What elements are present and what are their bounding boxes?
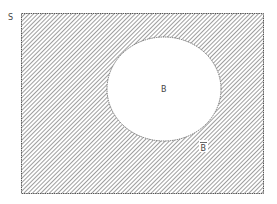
set-b-label: B bbox=[161, 85, 167, 94]
universe-label: S bbox=[8, 13, 13, 22]
venn-diagram: S B B bbox=[0, 0, 277, 204]
complement-label: B bbox=[201, 144, 207, 153]
